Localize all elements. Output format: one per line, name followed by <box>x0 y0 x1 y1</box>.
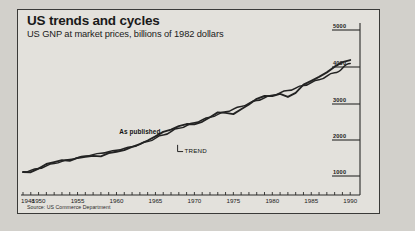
y-axis-group: 10002000300040005000 <box>332 23 360 195</box>
chart-plot-area: 10002000300040005000 1948195019551960196… <box>17 9 398 214</box>
x-tick-label: 1965 <box>149 197 163 204</box>
x-tick-label: 1980 <box>265 197 279 204</box>
y-tick-label: 3000 <box>333 97 346 103</box>
series-line <box>23 64 350 173</box>
x-tick-label: 1985 <box>304 197 318 204</box>
annotation-trend: TREND <box>185 147 208 154</box>
y-tick-label: 1000 <box>333 169 346 175</box>
annotation-as-published: As published <box>119 128 160 136</box>
x-tick-label: 1990 <box>343 197 357 204</box>
series-group <box>23 60 350 172</box>
y-tick-label: 2000 <box>333 133 346 139</box>
x-axis-group: 1948195019551960196519701975198019851990 <box>21 192 360 204</box>
line-chart-svg: 10002000300040005000 1948195019551960196… <box>17 9 398 214</box>
chart-source: Source: US Commerce Department <box>27 204 110 210</box>
x-tick-label: 1960 <box>110 197 124 204</box>
x-tick-label: 1975 <box>226 197 240 204</box>
annotation-leader-line <box>178 145 184 152</box>
x-tick-label: 1970 <box>188 197 202 204</box>
series-line <box>23 60 350 172</box>
y-tick-label: 5000 <box>333 23 346 29</box>
